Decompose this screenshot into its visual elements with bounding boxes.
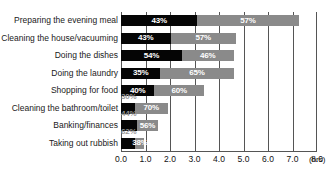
bar-segment-b: 38%	[135, 138, 144, 149]
bar-segment-b-label: 57%	[240, 17, 255, 25]
bar-segment-b-label: 38%	[132, 139, 147, 147]
bar-segment-a-label: 43%	[151, 17, 166, 25]
x-tick-label: 1.0	[140, 155, 152, 164]
category-label: Preparing the evening meal	[0, 16, 118, 25]
bar-segment-b: 65%	[160, 68, 233, 79]
bar-row: 62%38%	[121, 135, 317, 153]
stacked-bar: 43%57%	[121, 15, 299, 26]
bar-segment-b-label: 65%	[189, 69, 204, 77]
bar-segment-a: 43%	[121, 15, 197, 26]
x-axis-unit-label: (hrs)	[309, 155, 325, 164]
bar-chart: 43%57%43%57%54%46%35%65%40%60%30%70%44%5…	[0, 0, 329, 173]
bar-segment-a: 35%	[121, 68, 160, 79]
bar-segment-b: 70%	[135, 103, 168, 114]
bar-segment-b: 60%	[154, 85, 204, 96]
x-tick-label: 6.0	[262, 155, 274, 164]
x-tick-label: 0.0	[115, 155, 127, 164]
x-tick-label: 4.0	[213, 155, 225, 164]
stacked-bar: 35%65%	[121, 68, 234, 79]
x-axis: 0.01.02.03.04.05.06.07.08.0	[121, 153, 317, 167]
category-label: Cleaning the bathroom/toilet	[0, 104, 118, 113]
stacked-bar: 54%46%	[121, 50, 234, 61]
bar-row: 35%65%	[121, 65, 317, 83]
bar-row: 44%56%	[121, 117, 317, 135]
bar-segment-a-label: 43%	[138, 34, 153, 42]
bar-segment-b-label: 60%	[172, 87, 187, 95]
bar-segment-a: 43%	[121, 33, 171, 44]
category-label: Cleaning the house/vacuuming	[0, 34, 118, 43]
x-tick-label: 3.0	[189, 155, 201, 164]
stacked-bar: 43%57%	[121, 33, 236, 44]
stacked-bar: 62%38%	[121, 138, 144, 149]
bar-segment-a-label: 62%	[121, 128, 136, 136]
bar-row: 43%57%	[121, 12, 317, 30]
bar-segment-a-label: 44%	[121, 110, 136, 118]
bar-segment-a: 54%	[121, 50, 182, 61]
category-label: Taking out rubbish	[0, 139, 118, 148]
bar-row: 43%57%	[121, 30, 317, 48]
bar-row: 40%60%	[121, 82, 317, 100]
bar-segment-a-label: 54%	[144, 52, 159, 60]
x-tick-label: 5.0	[238, 155, 250, 164]
category-label: Shopping for food	[0, 86, 118, 95]
bar-row: 54%46%	[121, 47, 317, 65]
bar-row: 30%70%	[121, 100, 317, 118]
x-tick-label: 2.0	[164, 155, 176, 164]
category-label: Doing the dishes	[0, 51, 118, 60]
bar-segment-b-label: 70%	[144, 104, 159, 112]
plot-area: 43%57%43%57%54%46%35%65%40%60%30%70%44%5…	[121, 12, 317, 152]
bar-segment-b: 56%	[137, 120, 158, 131]
bar-segment-b: 57%	[197, 15, 298, 26]
x-tick-label: 7.0	[287, 155, 299, 164]
category-label: Doing the laundry	[0, 69, 118, 78]
bar-segment-b: 46%	[182, 50, 234, 61]
bar-segment-b-label: 57%	[196, 34, 211, 42]
category-label: Banking/finances	[0, 121, 118, 130]
bar-segment-a-label: 30%	[121, 93, 136, 101]
bar-segment-b-label: 56%	[140, 122, 155, 130]
bar-segment-b-label: 46%	[200, 52, 215, 60]
bar-segment-b: 57%	[171, 33, 237, 44]
bar-segment-a-label: 35%	[133, 69, 148, 77]
